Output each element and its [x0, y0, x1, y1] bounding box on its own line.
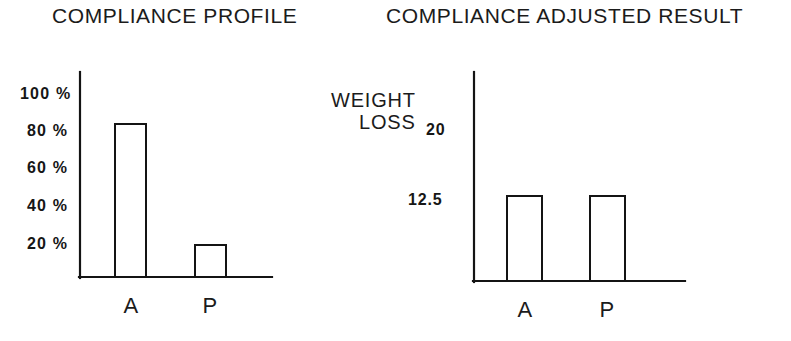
- bar-left-P: [195, 245, 226, 277]
- y-tick-left-60: 60 %: [27, 159, 68, 177]
- chart-plot-left: [0, 0, 300, 300]
- chart-panel-left: 100 % 80 % 60 % 40 % 20 % A P: [0, 0, 300, 300]
- y-tick-left-80: 80 %: [27, 122, 68, 140]
- x-tick-left-A: A: [110, 293, 152, 319]
- y-tick-right-20: 20: [426, 121, 445, 139]
- figure-canvas: COMPLIANCE PROFILE COMPLIANCE ADJUSTED R…: [0, 0, 791, 341]
- axis-caption-loss: LOSS: [359, 111, 416, 134]
- axis-caption-weight: WEIGHT: [331, 89, 416, 112]
- y-tick-left-40: 40 %: [27, 197, 68, 215]
- x-tick-right-A: A: [504, 297, 546, 323]
- y-tick-left-100: 100 %: [20, 85, 71, 103]
- y-tick-right-12-5: 12.5: [408, 191, 442, 209]
- chart-plot-right: [330, 0, 710, 300]
- chart-panel-right: WEIGHT LOSS 20 12.5 A P: [330, 0, 710, 300]
- x-tick-left-P: P: [189, 293, 231, 319]
- bar-right-P: [590, 196, 625, 281]
- x-tick-right-P: P: [586, 297, 628, 323]
- bar-right-A: [507, 196, 542, 281]
- bar-left-A: [115, 124, 146, 277]
- y-tick-left-20: 20 %: [27, 235, 68, 253]
